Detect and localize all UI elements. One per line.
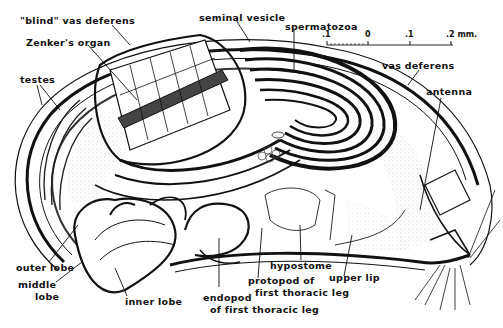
seminal-vesicle-body	[272, 132, 284, 138]
scale-bar	[327, 41, 453, 45]
label-endopod-line2: of first thoracic leg	[210, 304, 319, 315]
label-middle-lobe-line2: lobe	[35, 291, 59, 302]
clipped-caption	[40, 322, 480, 328]
label-antenna: antenna	[426, 86, 472, 97]
label-endopod-line1: endopod	[203, 292, 252, 303]
label-testes: testes	[20, 74, 55, 85]
label-protopod-line1: protopod of	[248, 275, 314, 286]
scale-tick-0-1: .1	[405, 30, 414, 39]
label-upper-lip: upper lip	[329, 272, 380, 283]
label-vas-deferens: vas deferens	[382, 60, 455, 71]
label-inner-lobe: inner lobe	[125, 296, 182, 307]
scale-tick-0-2-mm: .2 mm.	[446, 30, 477, 39]
label-seminal-vesicle: seminal vesicle	[199, 12, 285, 23]
label-outer-lobe: outer lobe	[16, 262, 74, 273]
label-middle-lobe-line1: middle	[18, 279, 56, 290]
label-blind-vas-deferens: "blind" vas deferens	[20, 15, 135, 26]
label-protopod-line2: first thoracic leg	[255, 287, 349, 298]
scale-tick-minus-0-1: .1	[322, 30, 331, 39]
scale-tick-0: 0	[365, 30, 371, 39]
label-zenkers-organ: Zenker's organ	[26, 37, 111, 48]
copulatory-lobes	[74, 197, 185, 292]
label-hypostome: hypostome	[270, 260, 332, 271]
